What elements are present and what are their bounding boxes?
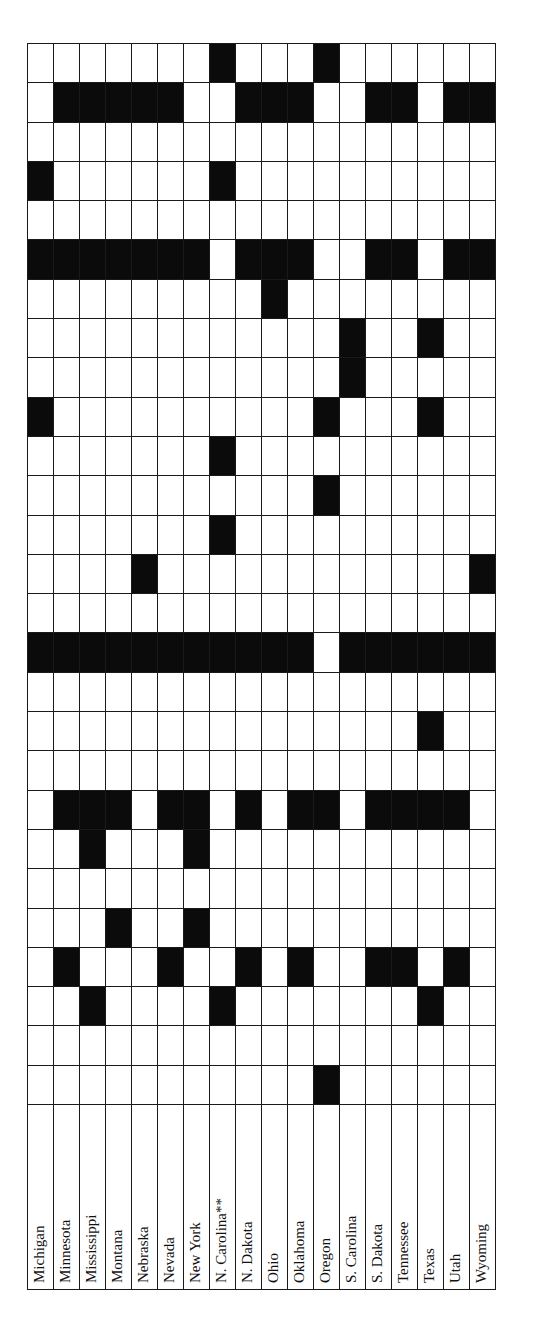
filled-cell xyxy=(80,633,106,672)
empty-cell xyxy=(288,829,314,868)
empty-cell xyxy=(158,515,184,554)
filled-cell xyxy=(80,829,106,868)
empty-cell xyxy=(236,436,262,475)
empty-cell xyxy=(80,397,106,436)
empty-cell xyxy=(236,476,262,515)
empty-cell xyxy=(80,122,106,161)
filled-cell xyxy=(392,83,418,122)
empty-cell xyxy=(444,987,470,1026)
empty-cell xyxy=(158,987,184,1026)
empty-cell xyxy=(54,712,80,751)
empty-cell xyxy=(158,869,184,908)
state-label: Nebraska xyxy=(135,1226,152,1283)
empty-cell xyxy=(106,279,132,318)
empty-cell xyxy=(106,319,132,358)
empty-cell xyxy=(132,751,158,790)
filled-cell xyxy=(314,476,340,515)
empty-cell xyxy=(54,436,80,475)
empty-cell xyxy=(28,515,54,554)
empty-cell xyxy=(28,869,54,908)
empty-cell xyxy=(262,358,288,397)
empty-cell xyxy=(106,751,132,790)
state-label: Tennessee xyxy=(395,1222,412,1283)
empty-cell xyxy=(132,712,158,751)
filled-cell xyxy=(418,397,444,436)
state-label: N. Dakota xyxy=(239,1221,256,1283)
filled-cell xyxy=(210,515,236,554)
empty-cell xyxy=(314,869,340,908)
state-header-cell: Nebraska xyxy=(132,1105,158,1290)
matrix-row xyxy=(28,279,496,318)
empty-cell xyxy=(80,1026,106,1065)
empty-cell xyxy=(210,672,236,711)
filled-cell xyxy=(184,829,210,868)
filled-cell xyxy=(314,790,340,829)
empty-cell xyxy=(470,436,496,475)
empty-cell xyxy=(418,122,444,161)
empty-cell xyxy=(80,201,106,240)
empty-cell xyxy=(470,279,496,318)
empty-cell xyxy=(132,515,158,554)
empty-cell xyxy=(132,476,158,515)
empty-cell xyxy=(210,712,236,751)
matrix-row xyxy=(28,947,496,986)
empty-cell xyxy=(236,122,262,161)
empty-cell xyxy=(54,515,80,554)
empty-cell xyxy=(28,279,54,318)
empty-cell xyxy=(470,829,496,868)
empty-cell xyxy=(236,869,262,908)
filled-cell xyxy=(470,240,496,279)
empty-cell xyxy=(184,279,210,318)
empty-cell xyxy=(444,712,470,751)
empty-cell xyxy=(366,515,392,554)
empty-cell xyxy=(236,397,262,436)
empty-cell xyxy=(366,476,392,515)
state-header-cell: New York xyxy=(184,1105,210,1290)
empty-cell xyxy=(470,319,496,358)
empty-cell xyxy=(418,1065,444,1104)
filled-cell xyxy=(54,947,80,986)
state-label: Oklahoma xyxy=(291,1221,308,1283)
empty-cell xyxy=(210,1065,236,1104)
empty-cell xyxy=(288,751,314,790)
empty-cell xyxy=(262,515,288,554)
empty-cell xyxy=(288,712,314,751)
empty-cell xyxy=(262,554,288,593)
filled-cell xyxy=(366,947,392,986)
matrix-row xyxy=(28,869,496,908)
empty-cell xyxy=(366,869,392,908)
empty-cell xyxy=(392,436,418,475)
empty-cell xyxy=(418,829,444,868)
empty-cell xyxy=(340,240,366,279)
filled-cell xyxy=(106,790,132,829)
empty-cell xyxy=(418,240,444,279)
empty-cell xyxy=(288,122,314,161)
empty-cell xyxy=(184,987,210,1026)
empty-cell xyxy=(314,594,340,633)
empty-cell xyxy=(158,201,184,240)
empty-cell xyxy=(28,829,54,868)
filled-cell xyxy=(288,83,314,122)
state-label: Texas xyxy=(421,1248,438,1283)
matrix-row xyxy=(28,515,496,554)
empty-cell xyxy=(314,1026,340,1065)
empty-cell xyxy=(158,397,184,436)
empty-cell xyxy=(340,436,366,475)
matrix-row xyxy=(28,1026,496,1065)
filled-cell xyxy=(444,240,470,279)
filled-cell xyxy=(158,240,184,279)
filled-cell xyxy=(444,790,470,829)
empty-cell xyxy=(314,201,340,240)
empty-cell xyxy=(28,1065,54,1104)
empty-cell xyxy=(106,436,132,475)
empty-cell xyxy=(314,436,340,475)
empty-cell xyxy=(288,44,314,83)
empty-cell xyxy=(262,476,288,515)
empty-cell xyxy=(54,319,80,358)
empty-cell xyxy=(262,436,288,475)
filled-cell xyxy=(132,633,158,672)
filled-cell xyxy=(184,240,210,279)
empty-cell xyxy=(28,83,54,122)
filled-cell xyxy=(470,633,496,672)
empty-cell xyxy=(392,397,418,436)
